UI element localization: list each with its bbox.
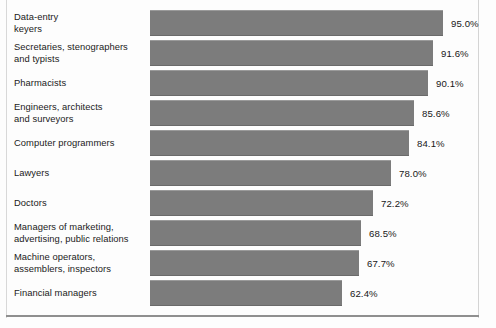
category-label: Computer programmers — [14, 137, 146, 149]
bar-row: Financial managers62.4% — [0, 280, 496, 306]
bar — [150, 160, 391, 186]
bar-value-label: 72.2% — [381, 198, 409, 209]
bar — [150, 10, 443, 36]
category-label: Pharmacists — [14, 77, 146, 89]
chart-plot-area: Data-entry keyers95.0%Secretaries, steno… — [0, 0, 496, 315]
bar — [150, 250, 359, 276]
bar-value-label: 85.6% — [422, 108, 450, 119]
bar — [150, 70, 428, 96]
bar-row: Secretaries, stenographers and typists91… — [0, 40, 496, 66]
bar-row: Engineers, architects and surveyors85.6% — [0, 100, 496, 126]
bar-value-label: 90.1% — [436, 78, 464, 89]
category-label: Doctors — [14, 197, 146, 209]
bar-value-label: 95.0% — [451, 18, 479, 29]
bar-row: Machine operators, assemblers, inspector… — [0, 250, 496, 276]
bar-track: 72.2% — [150, 190, 443, 216]
bar-value-label: 91.6% — [441, 48, 469, 59]
bar-track: 91.6% — [150, 40, 443, 66]
bar-track: 68.5% — [150, 220, 443, 246]
bar-track: 90.1% — [150, 70, 443, 96]
bar — [150, 130, 409, 156]
frame-bottom-rule — [6, 315, 479, 317]
category-label: Data-entry keyers — [14, 11, 146, 34]
category-label: Financial managers — [14, 287, 146, 299]
bar-row: Lawyers78.0% — [0, 160, 496, 186]
bar-value-label: 78.0% — [399, 168, 427, 179]
bar-track: 85.6% — [150, 100, 443, 126]
bar — [150, 190, 373, 216]
bar-chart-figure: Data-entry keyers95.0%Secretaries, steno… — [0, 0, 496, 328]
bar-row: Pharmacists90.1% — [0, 70, 496, 96]
bar-row: Doctors72.2% — [0, 190, 496, 216]
bar-track: 95.0% — [150, 10, 443, 36]
bar-row: Managers of marketing, advertising, publ… — [0, 220, 496, 246]
bar-track: 84.1% — [150, 130, 443, 156]
bar-track: 67.7% — [150, 250, 443, 276]
bar-value-label: 62.4% — [350, 288, 378, 299]
bar-value-label: 84.1% — [417, 138, 445, 149]
bar-row: Data-entry keyers95.0% — [0, 10, 496, 36]
category-label: Lawyers — [14, 167, 146, 179]
bar-track: 62.4% — [150, 280, 443, 306]
bar-row: Computer programmers84.1% — [0, 130, 496, 156]
category-label: Engineers, architects and surveyors — [14, 101, 146, 124]
bar — [150, 220, 361, 246]
category-label: Machine operators, assemblers, inspector… — [14, 251, 146, 274]
bar-track: 78.0% — [150, 160, 443, 186]
category-label: Secretaries, stenographers and typists — [14, 41, 146, 64]
bar-value-label: 68.5% — [369, 228, 397, 239]
bar — [150, 40, 433, 66]
category-label: Managers of marketing, advertising, publ… — [14, 221, 146, 244]
bar-value-label: 67.7% — [367, 258, 395, 269]
bar — [150, 280, 342, 306]
bar — [150, 100, 414, 126]
